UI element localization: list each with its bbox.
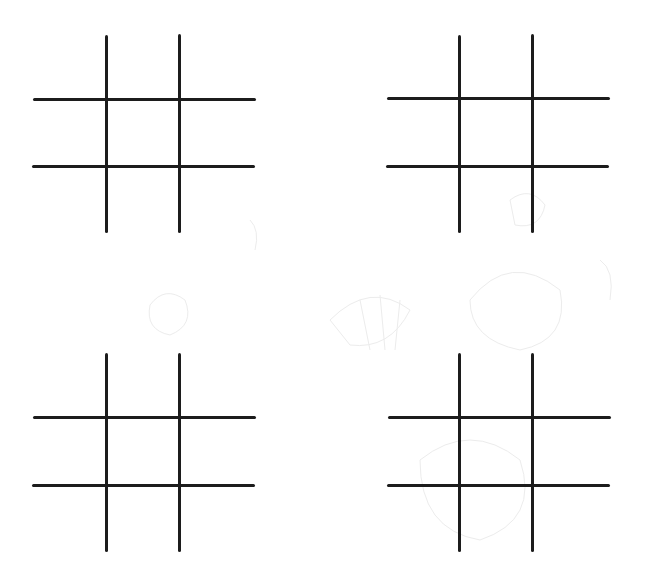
board-cell[interactable] xyxy=(108,101,177,164)
board-cell[interactable] xyxy=(181,487,254,550)
board-cell[interactable] xyxy=(389,168,457,231)
board-cell[interactable] xyxy=(534,419,609,483)
board-cell[interactable] xyxy=(461,355,530,415)
board-cell[interactable] xyxy=(534,487,609,550)
board-cell[interactable] xyxy=(108,419,177,483)
board-cell[interactable] xyxy=(108,487,177,550)
board-cell[interactable] xyxy=(461,100,530,164)
board-cell[interactable] xyxy=(389,100,457,164)
board-cell[interactable] xyxy=(461,419,530,483)
board-cell[interactable] xyxy=(181,168,254,231)
board-cell[interactable] xyxy=(108,168,177,231)
board-cell[interactable] xyxy=(461,37,530,96)
board-cell[interactable] xyxy=(461,487,530,550)
board-cell[interactable] xyxy=(390,419,457,483)
board-cell[interactable] xyxy=(108,37,177,97)
board-cell[interactable] xyxy=(35,37,104,97)
board-cell[interactable] xyxy=(181,419,254,483)
board-cell[interactable] xyxy=(534,168,608,231)
board-cell[interactable] xyxy=(108,355,177,415)
board-cell[interactable] xyxy=(35,101,104,164)
board-cell[interactable] xyxy=(35,168,104,231)
board-cell[interactable] xyxy=(181,37,254,97)
board-cell[interactable] xyxy=(390,487,457,550)
board-cell[interactable] xyxy=(534,355,609,415)
board-cell[interactable] xyxy=(461,168,530,231)
board-cell[interactable] xyxy=(35,355,104,415)
board-cell[interactable] xyxy=(390,355,457,415)
board-cell[interactable] xyxy=(181,355,254,415)
board-cell[interactable] xyxy=(534,37,608,96)
board-cell[interactable] xyxy=(181,101,254,164)
board-cell[interactable] xyxy=(534,100,608,164)
board-cell[interactable] xyxy=(35,487,104,550)
board-cell[interactable] xyxy=(389,37,457,96)
board-cell[interactable] xyxy=(35,419,104,483)
